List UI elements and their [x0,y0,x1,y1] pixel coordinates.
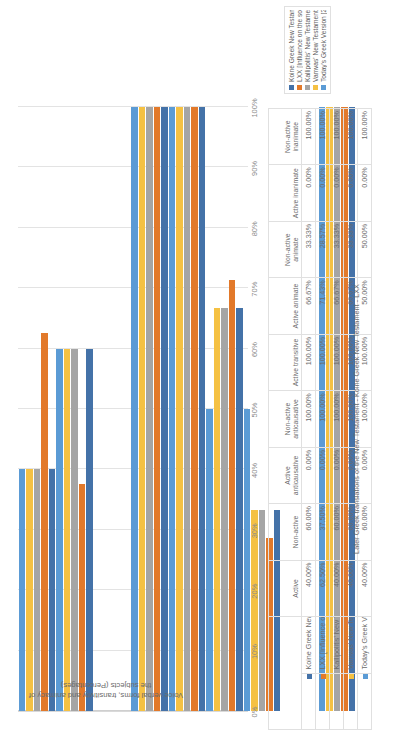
bar [191,107,198,711]
bar [131,107,138,711]
series-color-swatch [321,674,326,679]
table-cell-value: 100.00% [330,109,344,165]
table-column-header: Active anticausative [269,447,302,503]
bar-group [18,108,56,711]
table-cell-value: 71.43% [316,278,330,334]
legend-item-label: LXX [Influence on the source and target … [296,10,303,82]
table-cell-value: 100.00% [330,391,344,447]
table-column-header: Non-active inanimate [269,109,302,165]
table-cell-value: 60.00% [302,504,316,560]
table-cell-value: 100.00% [316,334,330,390]
tick-label: 50% [250,402,259,417]
legend-item[interactable]: LXX [Influence on the source and target … [296,10,303,90]
tick-label: 90% [250,161,259,176]
legend-color-swatch [321,85,326,90]
table-cell-value: 40.00% [330,560,344,616]
table-cell-value: 0.00% [302,165,316,221]
table-cell-value: 100.00% [302,391,316,447]
tick-label: 70% [250,282,259,297]
bar [49,469,56,711]
bar [169,107,176,711]
legend-item-label: Vamvas' New Testament [19th century] [312,10,319,82]
table-cell-value: 62.50% [316,560,330,616]
table-header-row: ActiveNon-activeActive anticausativeNon-… [269,109,302,730]
bar [221,308,228,711]
table-cell-value: 33.33% [330,221,344,277]
table-column-header: Non-active [269,504,302,560]
table-cell-value: 40.00% [302,560,316,616]
bar [176,107,183,711]
table-cell-value: 100.00% [302,334,316,390]
series-color-swatch [307,674,312,679]
bar [199,107,206,711]
bar [139,107,146,711]
bar [146,107,153,711]
tick-label: 40% [250,463,259,478]
bar [19,469,26,711]
bar [64,349,71,711]
table-cell-value: 100.00% [316,391,330,447]
table-cell-value: 100.00% [330,334,344,390]
bar-group [168,108,206,711]
bar [71,349,78,711]
series-color-swatch-cell [302,673,316,729]
table-cell-value: 66.67% [302,278,316,334]
bar [56,349,63,711]
table-cell-value: 0.00% [302,447,316,503]
tick-label: 10% [250,644,259,659]
bar-groups [18,108,248,711]
table-corner-cell [269,617,302,730]
table-column-header: Active inanimate [269,165,302,221]
table-cell-value: 0.00% [316,447,330,503]
table-cell-value: 28.57% [316,221,330,277]
table-cell-value: 66.67% [330,278,344,334]
table-cell-value: 100.00% [316,109,330,165]
tick-label: 60% [250,342,259,357]
series-color-swatch-cell [316,673,330,729]
table-row: LXX [Influence on the source and target … [316,109,330,730]
legend-item[interactable]: Kallipolitis' New Testament [17th centur… [304,10,311,90]
bar [26,469,33,711]
table-column-header: Active transitive [269,334,302,390]
table-cell-value: 60.00% [330,504,344,560]
table-row-label: Koine Greek New Testament [Source text] [302,617,316,673]
data-table-body: Koine Greek New Testament [Source text]4… [302,109,372,730]
table-row-label: Kallipolitis' New Testament [17th centur… [330,617,344,673]
chart-legend: Koine Greek New Testament [Source text]L… [284,6,331,94]
legend-color-swatch [305,85,310,90]
legend-color-swatch [313,85,318,90]
table-row: Kallipolitis' New Testament [17th centur… [330,109,344,730]
bar [34,469,41,711]
bar-group [93,108,131,711]
legend-item-label: Today's Greek Version [20th century] [320,10,327,82]
legend-item-label: Koine Greek New Testament [Source text] [288,10,295,82]
legend-item[interactable]: Vamvas' New Testament [19th century] [312,10,319,90]
value-axis-tick-labels: 0%10%20%30%40%50%60%70%80%90%100% [250,108,266,712]
legend-item-label: Kallipolitis' New Testament [17th centur… [304,10,311,82]
table-cell-value: 0.00% [330,165,344,221]
rotated-figure-wrapper: 0%10%20%30%40%50%60%70%80%90%100% Voice … [0,0,396,730]
table-cell-value: 100.00% [302,109,316,165]
bar [184,107,191,711]
tick-label: 20% [250,584,259,599]
chart-figure: 0%10%20%30%40%50%60%70%80%90%100% Voice … [0,0,396,730]
table-cell-value: 33.33% [302,221,316,277]
category-axis-title: Later Greek translations of the New Test… [352,108,361,730]
table-column-header: Active animate [269,278,302,334]
plot-area [18,108,248,712]
legend-color-swatch [289,85,294,90]
legend-item[interactable]: Koine Greek New Testament [Source text] [288,10,295,90]
bar [161,107,168,711]
bar [154,107,161,711]
bar [86,349,93,711]
legend-item[interactable]: Today's Greek Version [20th century] [320,10,327,90]
tick-label: 30% [250,523,259,538]
table-column-header: Non-active animate [269,221,302,277]
legend-color-swatch [297,85,302,90]
bar [41,334,48,712]
bar-group [56,108,94,711]
table-cell-value: 37.50% [316,504,330,560]
series-color-swatch [363,674,368,679]
bar-group [206,108,244,711]
table-row-label: LXX [Influence on the source and target … [316,617,330,673]
